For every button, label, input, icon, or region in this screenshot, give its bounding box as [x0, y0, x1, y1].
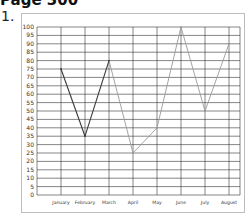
- data-point: [204, 110, 206, 112]
- data-point: [132, 152, 134, 154]
- y-tick-label: 5: [30, 183, 34, 190]
- y-tick-label: 25: [26, 149, 34, 156]
- data-point: [108, 60, 110, 62]
- y-tick-label: 35: [26, 132, 34, 139]
- data-point: [180, 26, 182, 28]
- y-tick-label: 20: [26, 157, 34, 164]
- y-tick-label: 15: [26, 166, 34, 173]
- y-tick-label: 30: [26, 141, 34, 148]
- y-tick-label: 45: [26, 115, 34, 122]
- x-tick-label: May: [152, 200, 162, 205]
- y-tick-label: 50: [26, 107, 34, 114]
- x-tick-label: January: [51, 200, 70, 205]
- x-tick-label: July: [200, 200, 210, 205]
- y-tick-label: 100: [23, 23, 35, 30]
- data-point: [156, 127, 158, 129]
- y-tick-label: 90: [26, 40, 34, 47]
- y-tick-label: 75: [26, 65, 34, 72]
- y-tick-label: 55: [26, 99, 34, 106]
- y-tick-label: 95: [26, 31, 34, 38]
- x-tick-label: March: [102, 200, 116, 205]
- y-tick-label: 65: [26, 82, 34, 89]
- y-tick-label: 40: [26, 124, 34, 131]
- line-chart: 0510152025303540455055606570758085909510…: [0, 0, 252, 216]
- data-point: [228, 43, 230, 45]
- x-tick-label: August: [221, 200, 237, 205]
- data-point: [84, 135, 86, 137]
- y-tick-label: 10: [26, 174, 34, 181]
- x-tick-label: April: [128, 200, 139, 205]
- y-tick-label: 80: [26, 57, 34, 64]
- y-tick-label: 60: [26, 90, 34, 97]
- data-line-segment: [133, 128, 157, 153]
- data-line-segment: [85, 61, 109, 137]
- x-tick-label: June: [175, 200, 186, 205]
- data-point: [60, 68, 62, 70]
- y-tick-label: 0: [30, 191, 34, 198]
- x-tick-label: February: [75, 200, 96, 205]
- y-tick-label: 70: [26, 73, 34, 80]
- data-line-segment: [109, 61, 133, 153]
- y-tick-label: 85: [26, 48, 34, 55]
